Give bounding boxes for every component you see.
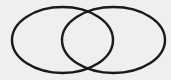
- venn-diagram: [0, 0, 171, 80]
